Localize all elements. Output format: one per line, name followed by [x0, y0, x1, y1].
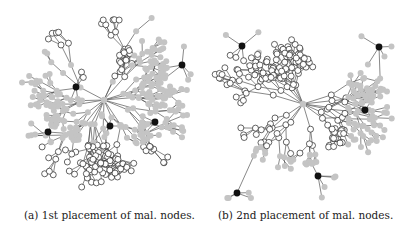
- informed-node-icon: [74, 119, 80, 125]
- informed-node-icon: [354, 82, 360, 88]
- informed-node-icon: [100, 125, 106, 131]
- informed-node-icon: [28, 80, 34, 86]
- informed-node-icon: [351, 127, 357, 133]
- uninformed-node-icon: [161, 159, 167, 165]
- uninformed-node-icon: [337, 140, 343, 146]
- informed-node-icon: [288, 166, 294, 172]
- informed-node-icon: [32, 88, 38, 94]
- uninformed-node-icon: [65, 40, 71, 46]
- informed-node-icon: [60, 135, 66, 141]
- informed-node-icon: [258, 144, 264, 150]
- network-graph-panel-b: [206, 4, 408, 204]
- informed-node-icon: [47, 80, 53, 86]
- nodes: [212, 29, 395, 201]
- caption-subfigure-b: (b) 2nd placement of mal. nodes.: [218, 209, 393, 227]
- informed-node-icon: [179, 134, 185, 140]
- informed-node-icon: [181, 43, 187, 49]
- informed-node-icon: [139, 119, 145, 125]
- uninformed-node-icon: [273, 57, 279, 63]
- informed-node-icon: [156, 132, 162, 138]
- informed-node-icon: [75, 96, 81, 102]
- informed-node-icon: [55, 92, 61, 98]
- uninformed-node-icon: [112, 73, 118, 79]
- uninformed-node-icon: [80, 74, 86, 80]
- informed-node-icon: [365, 61, 371, 67]
- uninformed-node-icon: [272, 115, 278, 121]
- informed-node-icon: [353, 101, 359, 107]
- malicious-node-icon: [45, 129, 52, 136]
- uninformed-node-icon: [53, 156, 59, 162]
- informed-node-icon: [124, 135, 130, 141]
- informed-node-icon: [332, 173, 338, 179]
- informed-node-icon: [345, 105, 351, 111]
- informed-node-icon: [50, 104, 56, 110]
- informed-node-icon: [345, 141, 351, 147]
- informed-node-icon: [166, 88, 172, 94]
- informed-node-icon: [158, 70, 164, 76]
- informed-node-icon: [132, 87, 138, 93]
- uninformed-node-icon: [80, 161, 86, 167]
- uninformed-node-icon: [328, 92, 334, 98]
- informed-node-icon: [358, 33, 364, 39]
- informed-node-icon: [365, 149, 371, 155]
- informed-node-icon: [226, 195, 232, 201]
- uninformed-node-icon: [219, 72, 225, 78]
- hub-node-icon: [101, 97, 107, 103]
- informed-node-icon: [275, 164, 281, 170]
- informed-node-icon: [277, 153, 283, 159]
- informed-node-icon: [148, 58, 154, 64]
- uninformed-node-icon: [46, 168, 52, 174]
- malicious-node-icon: [152, 119, 159, 126]
- informed-node-icon: [49, 94, 55, 100]
- uninformed-node-icon: [331, 135, 337, 141]
- informed-node-icon: [384, 110, 390, 116]
- malicious-node-icon: [179, 62, 186, 69]
- informed-node-icon: [133, 28, 139, 34]
- uninformed-node-icon: [342, 99, 348, 105]
- informed-node-icon: [351, 137, 357, 143]
- informed-node-icon: [149, 15, 155, 21]
- uninformed-node-icon: [115, 156, 121, 162]
- uninformed-node-icon: [121, 50, 127, 56]
- informed-node-icon: [139, 82, 145, 88]
- informed-node-icon: [132, 127, 138, 133]
- malicious-node-icon: [315, 173, 322, 180]
- informed-node-icon: [51, 117, 57, 123]
- uninformed-node-icon: [286, 52, 292, 58]
- uninformed-node-icon: [62, 147, 68, 153]
- uninformed-node-icon: [282, 59, 288, 65]
- informed-node-icon: [362, 94, 368, 100]
- informed-node-icon: [131, 52, 137, 58]
- uninformed-node-icon: [58, 42, 64, 48]
- informed-node-icon: [28, 121, 34, 127]
- informed-node-icon: [60, 70, 66, 76]
- informed-node-icon: [32, 131, 38, 137]
- uninformed-node-icon: [308, 126, 314, 132]
- informed-node-icon: [147, 110, 153, 116]
- informed-node-icon: [373, 133, 379, 139]
- informed-node-icon: [26, 133, 32, 139]
- informed-node-icon: [61, 106, 67, 112]
- informed-node-icon: [157, 54, 163, 60]
- uninformed-node-icon: [123, 57, 129, 63]
- informed-node-icon: [132, 139, 138, 145]
- uninformed-node-icon: [258, 127, 264, 133]
- uninformed-node-icon: [274, 51, 280, 57]
- uninformed-node-icon: [243, 90, 249, 96]
- uninformed-node-icon: [55, 149, 61, 155]
- malicious-node-icon: [362, 107, 369, 114]
- uninformed-node-icon: [255, 84, 261, 90]
- uninformed-node-icon: [278, 87, 284, 93]
- informed-node-icon: [377, 123, 383, 129]
- uninformed-node-icon: [39, 144, 45, 150]
- informed-node-icon: [307, 152, 313, 158]
- informed-node-icon: [350, 96, 356, 102]
- informed-node-icon: [120, 91, 126, 97]
- uninformed-node-icon: [236, 71, 242, 77]
- uninformed-node-icon: [267, 126, 273, 132]
- informed-node-icon: [346, 116, 352, 122]
- uninformed-node-icon: [255, 51, 261, 57]
- uninformed-node-icon: [165, 154, 171, 160]
- uninformed-node-icon: [252, 72, 258, 78]
- uninformed-node-icon: [268, 74, 274, 80]
